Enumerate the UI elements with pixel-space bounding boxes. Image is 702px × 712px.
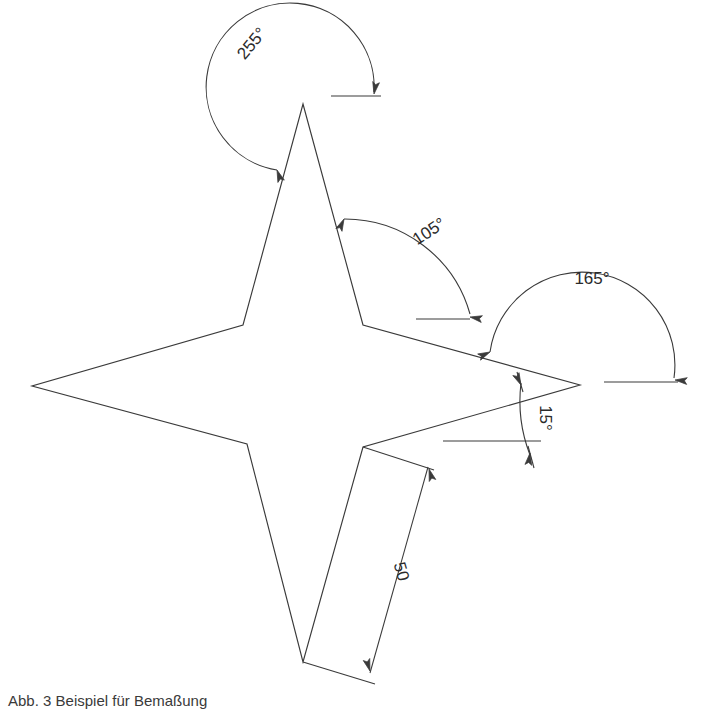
dimension-label-165: 165° bbox=[574, 269, 609, 288]
dimension-label-15: 15° bbox=[536, 405, 555, 431]
technical-drawing-canvas: 255° 105° 165° 15° 50 Abb. 3 Beispiel fü bbox=[0, 0, 702, 712]
figure-caption: Abb. 3 Beispiel für Bemaßung bbox=[8, 692, 207, 709]
drawing-background bbox=[0, 0, 702, 712]
